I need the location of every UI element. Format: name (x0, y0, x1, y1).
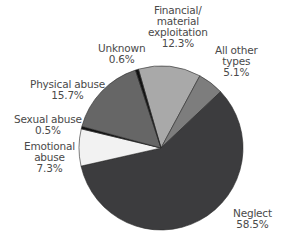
label-physical: Physical abuse 15.7% (30, 79, 105, 101)
label-value: 15.7% (30, 90, 105, 101)
label-value: 58.5% (233, 219, 272, 230)
label-emotional: Emotional abuse 7.3% (24, 141, 75, 174)
label-value: 0.5% (14, 125, 82, 136)
label-financial: Financial/ material exploitation 12.3% (148, 5, 208, 49)
label-unknown: Unknown 0.6% (98, 43, 145, 65)
label-value: 5.1% (215, 67, 258, 78)
label-neglect: Neglect 58.5% (233, 208, 272, 230)
label-value: 12.3% (148, 38, 208, 49)
label-value: 0.6% (98, 54, 145, 65)
label-sexual: Sexual abuse 0.5% (14, 114, 82, 136)
label-value: 7.3% (24, 163, 75, 174)
label-all-other: All other types 5.1% (215, 45, 258, 78)
